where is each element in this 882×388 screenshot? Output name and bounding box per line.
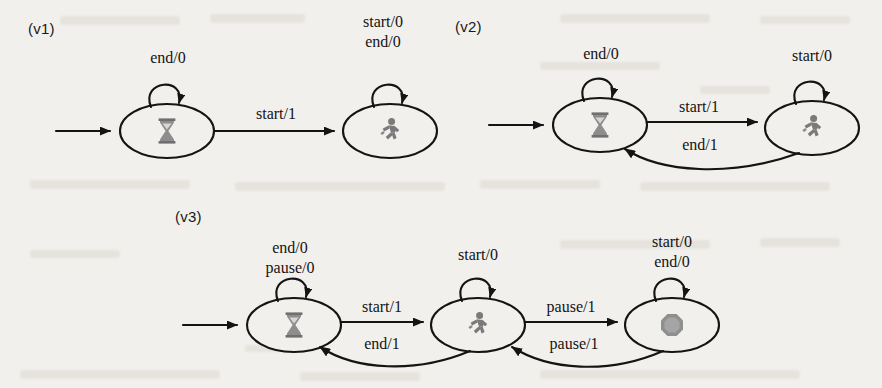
v3-idle-loop-line-2: pause/0	[235, 258, 345, 278]
v1-state-running[interactable]	[343, 104, 437, 158]
filled-octagon-icon	[661, 314, 683, 336]
v3-idle-loop-line-1: end/0	[235, 238, 345, 258]
v3-pause1-forward-label: pause/1	[524, 297, 618, 316]
fsm-diagram-page: (v1) end/0 start/0 end/0 start/1 (v2) en…	[0, 0, 882, 388]
v1-running-loop-line-1: start/0	[328, 12, 438, 32]
v2-state-running[interactable]	[765, 101, 859, 155]
v3-state-running[interactable]	[431, 298, 525, 352]
version-label-v2: (v2)	[455, 18, 482, 35]
version-label-v3: (v3)	[175, 208, 202, 225]
v3-paused-loop-line-1: start/0	[618, 232, 726, 252]
diagram-v3	[183, 279, 719, 367]
v1-running-loop-line-2: end/0	[328, 32, 438, 52]
version-label-v1: (v1)	[28, 20, 55, 37]
diagram-v2	[489, 79, 859, 170]
v2-running-self-loop-label: start/0	[766, 46, 858, 65]
v2-end1-label: end/1	[660, 135, 740, 154]
v3-start1-label: start/1	[338, 297, 426, 316]
v2-start1-label: start/1	[655, 97, 743, 116]
v1-running-self-loop-label: start/0 end/0	[328, 12, 438, 52]
v3-end1-label: end/1	[342, 334, 422, 353]
v1-start1-label: start/1	[232, 104, 320, 123]
v3-pause1-back-label: pause/1	[527, 334, 621, 353]
v3-running-self-loop-label: start/0	[432, 245, 524, 264]
v1-idle-self-loop-label: end/0	[123, 48, 213, 67]
v3-idle-self-loop-label: end/0 pause/0	[235, 238, 345, 278]
v3-paused-self-loop-label: start/0 end/0	[618, 232, 726, 272]
v2-idle-self-loop-label: end/0	[556, 44, 646, 63]
v3-paused-loop-line-2: end/0	[618, 252, 726, 272]
